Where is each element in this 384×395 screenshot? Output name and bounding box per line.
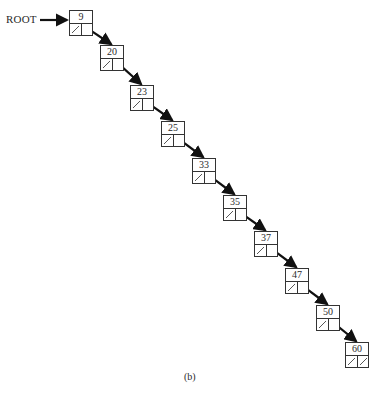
right-pointer	[298, 282, 309, 294]
left-pointer	[193, 172, 205, 184]
tree-node: 50	[316, 305, 340, 331]
null-pointer-icon	[288, 284, 295, 291]
node-key: 47	[286, 269, 308, 282]
tree-node: 9	[69, 10, 93, 36]
null-pointer-icon	[360, 358, 367, 365]
null-pointer-icon	[103, 61, 110, 68]
left-pointer	[162, 135, 174, 147]
left-pointer	[346, 356, 358, 368]
tree-node: 47	[285, 268, 309, 294]
right-pointer	[143, 99, 154, 111]
edges-layer	[0, 0, 384, 395]
node-key: 37	[255, 232, 277, 245]
node-key: 50	[317, 306, 339, 319]
right-pointer	[329, 319, 340, 331]
left-pointer	[286, 282, 298, 294]
node-key: 25	[162, 122, 184, 135]
node-key: 20	[101, 46, 123, 59]
node-key: 35	[224, 196, 246, 209]
right-pointer	[113, 59, 124, 71]
node-key: 23	[131, 86, 153, 99]
left-pointer	[70, 24, 82, 36]
left-pointer	[224, 209, 236, 221]
right-pointer	[358, 356, 369, 368]
tree-node: 60	[345, 342, 369, 368]
left-pointer	[255, 245, 267, 257]
node-key: 33	[193, 159, 215, 172]
node-key: 9	[70, 11, 92, 24]
null-pointer-icon	[257, 247, 264, 254]
null-pointer-icon	[226, 211, 233, 218]
null-pointer-icon	[195, 174, 202, 181]
left-pointer	[131, 99, 143, 111]
left-pointer	[101, 59, 113, 71]
null-pointer-icon	[348, 358, 355, 365]
tree-node: 20	[100, 45, 124, 71]
left-pointer	[317, 319, 329, 331]
tree-node: 33	[192, 158, 216, 184]
right-pointer	[82, 24, 93, 36]
tree-node: 37	[254, 231, 278, 257]
tree-node: 35	[223, 195, 247, 221]
tree-node: 23	[130, 85, 154, 111]
right-pointer	[205, 172, 216, 184]
node-key: 60	[346, 343, 368, 356]
right-pointer	[174, 135, 185, 147]
null-pointer-icon	[319, 321, 326, 328]
null-pointer-icon	[72, 26, 79, 33]
figure-caption: (b)	[184, 371, 196, 382]
null-pointer-icon	[164, 137, 171, 144]
root-label: ROOT	[6, 13, 37, 25]
right-pointer	[236, 209, 247, 221]
tree-node: 25	[161, 121, 185, 147]
null-pointer-icon	[133, 101, 140, 108]
right-pointer	[267, 245, 278, 257]
